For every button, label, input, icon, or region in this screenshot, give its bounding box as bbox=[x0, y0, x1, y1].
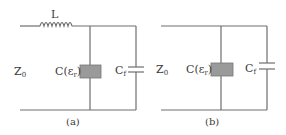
fringe-capacitance-label-b: Cf bbox=[245, 62, 257, 76]
circuit-b: Z0 C(εr) Cf (b) bbox=[156, 26, 275, 127]
circuit-a: L Z0 C(εr) Cf (a) bbox=[14, 8, 144, 127]
dielectric-capacitor-icon bbox=[80, 65, 101, 78]
inductor-label: L bbox=[51, 8, 59, 21]
dielectric-capacitor-icon bbox=[211, 63, 233, 76]
circuit-diagram: L Z0 C(εr) Cf (a) Z0 C(εr) Cf (b) bbox=[0, 0, 286, 135]
caption-a: (a) bbox=[66, 116, 80, 127]
fringe-capacitance-label-a: Cf bbox=[115, 64, 127, 78]
impedance-label-b: Z0 bbox=[156, 63, 168, 77]
caption-b: (b) bbox=[205, 116, 219, 127]
dielectric-label-a: C(εr) bbox=[55, 65, 81, 79]
inductor-coil-icon bbox=[40, 23, 72, 27]
impedance-label-a: Z0 bbox=[14, 65, 26, 79]
dielectric-label-b: C(εr) bbox=[186, 63, 212, 77]
